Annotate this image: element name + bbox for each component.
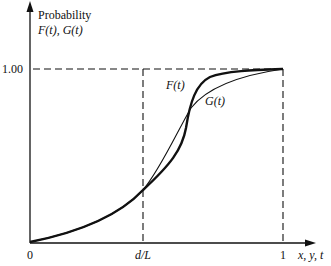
chart-canvas: Probability F(t), G(t) 1.00 0 d/L 1 x, y… <box>0 0 331 266</box>
series-G <box>30 69 283 242</box>
x-axis-arrow-icon <box>305 240 316 247</box>
ylabel-functions: F(t), G(t) <box>37 23 83 37</box>
ytick-1: 1.00 <box>2 62 23 76</box>
ylabel-probability: Probability <box>38 8 91 22</box>
xlabel: x, y, t <box>297 248 324 262</box>
annotation-G: G(t) <box>205 94 225 108</box>
xtick-1: 1 <box>280 248 286 262</box>
y-axis-arrow-icon <box>27 1 34 12</box>
series-F <box>30 69 283 242</box>
xtick-0: 0 <box>27 248 33 262</box>
annotation-F: F(t) <box>165 78 185 92</box>
xtick-dL: d/L <box>135 248 151 262</box>
